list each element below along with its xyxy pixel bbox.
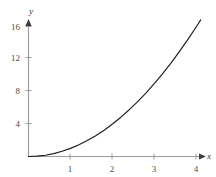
chart-container: 1 2 3 4 4 8 12 16 x y: [0, 0, 216, 177]
x-tick-label-2: 2: [110, 164, 115, 174]
x-axis-label: x: [206, 151, 211, 161]
y-tick-label-16: 16: [11, 22, 21, 32]
x-tick-label-1: 1: [68, 164, 73, 174]
y-tick-label-12: 12: [11, 53, 20, 63]
plot-area: 1 2 3 4 4 8 12 16 x y: [0, 0, 216, 177]
x-tick-label-4: 4: [194, 164, 199, 174]
chart-background: [0, 0, 216, 177]
y-axis-label: y: [28, 6, 33, 16]
x-tick-label-3: 3: [152, 164, 157, 174]
y-tick-label-4: 4: [16, 119, 21, 129]
y-tick-label-8: 8: [16, 86, 21, 96]
